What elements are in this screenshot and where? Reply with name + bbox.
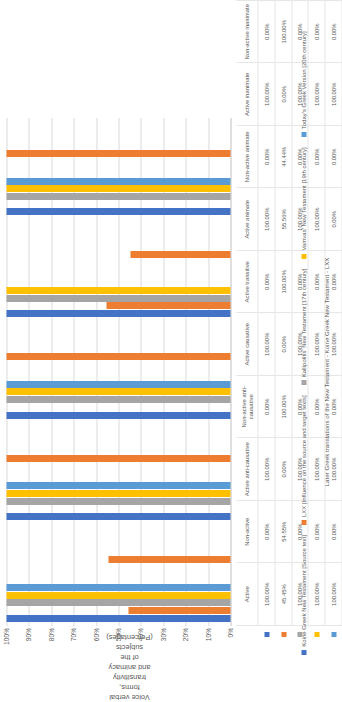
legend-item-label: Koine Greek New Testament [Source text]: [300, 535, 306, 647]
table-cell: 0.00%: [258, 0, 275, 64]
series-color-swatch: [331, 632, 336, 637]
legend-item[interactable]: LXX [Influence on the source and target …: [300, 395, 306, 525]
bar: [6, 455, 230, 462]
bar: [128, 607, 230, 614]
table-header-row: ActiveNon-activeActive anti-causativeNon…: [236, 0, 258, 686]
bar-group: [6, 169, 230, 220]
table-cell: 0.00%: [275, 64, 292, 127]
table-cell: 100.00%: [258, 189, 275, 252]
table-column-header: Non-active inanimate: [236, 0, 258, 64]
table-row-label: [325, 626, 342, 686]
bar-group: [6, 474, 230, 525]
legend-item-label: LXX [Influence on the source and target …: [300, 395, 306, 517]
table-cell: 0.00%: [275, 314, 292, 377]
y-axis-tick-label: 90%: [25, 628, 32, 641]
bar: [6, 353, 230, 360]
bar-group: [6, 220, 230, 271]
y-axis-tick-label: 80%: [47, 628, 54, 641]
bar: [6, 498, 230, 505]
bar: [6, 396, 230, 403]
bar: [6, 193, 230, 200]
y-axis-tick-label: 40%: [137, 628, 144, 641]
bar: [6, 482, 230, 489]
table-column-header: Active transitive: [236, 251, 258, 314]
table-cell: 0.00%: [258, 501, 275, 564]
legend-item[interactable]: Today's Greek Version [20th century]: [300, 31, 306, 137]
y-axis-tick-label: 30%: [159, 628, 166, 641]
legend-color-swatch: [301, 254, 306, 259]
bar-group: [6, 423, 230, 474]
legend-item-label: Vamvas' New Testament [19th century]: [300, 147, 306, 250]
table-cell: 55.56%: [275, 189, 292, 252]
y-axis-ticks: 100%90%80%70%60%50%40%30%20%10%0%: [0, 626, 236, 652]
table-cell: 100.00%: [275, 0, 292, 64]
legend-color-swatch: [301, 132, 306, 137]
table-row-cells: 100.00%0.00%100.00%0.00%100.00%0.00%100.…: [258, 0, 275, 626]
table-cell: 0.00%: [308, 0, 325, 64]
series-color-swatch: [264, 632, 269, 637]
bar-group: [6, 575, 230, 626]
bar: [6, 388, 230, 395]
table-cell: 0.00%: [258, 126, 275, 189]
x-axis-title: Later Greek translations of the New Test…: [322, 118, 329, 626]
bar: [106, 302, 230, 309]
table-row: 100.00%0.00%100.00%0.00%100.00%0.00%100.…: [258, 0, 275, 686]
table-cell: 100.00%: [325, 64, 342, 127]
y-axis-tick-label: 60%: [92, 628, 99, 641]
table-row-label: [308, 626, 325, 686]
table-row-cells: 45.45%54.55%0.00%100.00%0.00%100.00%55.5…: [275, 0, 292, 626]
legend-item-label: Today's Greek Version [20th century]: [300, 31, 306, 129]
table-row-label: [275, 626, 292, 686]
table-cell: 100.00%: [258, 64, 275, 127]
bar-group: [6, 270, 230, 321]
bar-group: [6, 321, 230, 372]
bar: [130, 251, 230, 258]
bars-plot: [6, 118, 230, 626]
y-axis-title: Voice verbal forms, transitivity and ani…: [0, 650, 258, 684]
table-cell: 45.45%: [275, 564, 292, 627]
bar-group: [6, 372, 230, 423]
table-cell: 100.00%: [275, 376, 292, 439]
bar-group: [6, 118, 230, 169]
bar: [6, 150, 230, 157]
table-cell: 54.55%: [275, 501, 292, 564]
bar: [6, 381, 230, 388]
table-header-cells: ActiveNon-activeActive anti-causativeNon…: [236, 0, 258, 626]
table-cell: 100.00%: [258, 314, 275, 377]
bar: [108, 556, 230, 563]
bar: [6, 490, 230, 497]
table-column-header: Active animate: [236, 189, 258, 252]
bar: [6, 412, 230, 419]
table-column-header: Active inanimate: [236, 64, 258, 127]
table-cell: 0.00%: [325, 0, 342, 64]
bar: [6, 310, 230, 317]
table-column-header: Active causative: [236, 314, 258, 377]
series-color-swatch: [281, 632, 286, 637]
table-row: 45.45%54.55%0.00%100.00%0.00%100.00%55.5…: [275, 0, 292, 686]
table-column-header: Active anti-causative: [236, 439, 258, 502]
legend-color-swatch: [301, 650, 306, 655]
bar: [6, 599, 230, 606]
y-axis-tick-label: 20%: [182, 628, 189, 641]
table-cell: 100.00%: [275, 251, 292, 314]
legend-item[interactable]: Vamvas' New Testament [19th century]: [300, 147, 306, 258]
bar: [6, 615, 230, 622]
y-axis-tick-label: 70%: [70, 628, 77, 641]
bar: [6, 287, 230, 294]
table-cell: 0.00%: [258, 376, 275, 439]
bar-group: [6, 524, 230, 575]
legend-item[interactable]: Koine Greek New Testament [Source text]: [300, 535, 306, 655]
bar: [6, 513, 230, 520]
bar: [6, 584, 230, 591]
table-column-header: Non-active anti-causative: [236, 376, 258, 439]
table-cell: 100.00%: [308, 64, 325, 127]
legend-item[interactable]: Kallipolitis' New Testament [17th centur…: [300, 269, 306, 386]
bar-groups: [6, 118, 230, 626]
table-cell: 0.00%: [258, 251, 275, 314]
table-corner-cell: [236, 626, 258, 686]
table-cell: 44.44%: [275, 126, 292, 189]
chart-legend: Koine Greek New Testament [Source text]L…: [300, 0, 306, 686]
